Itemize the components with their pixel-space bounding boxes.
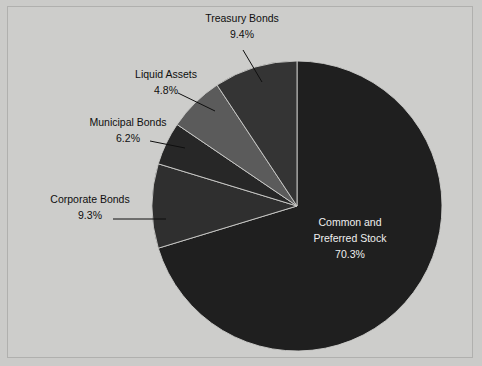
pie-wedges-group xyxy=(152,61,442,351)
label-treasury-bonds-name: Treasury Bonds xyxy=(205,12,279,24)
pie-chart-canvas: Treasury Bonds 9.4% Liquid Assets 4.8% M… xyxy=(0,0,482,366)
pie-chart-figure: Treasury Bonds 9.4% Liquid Assets 4.8% M… xyxy=(0,0,482,366)
label-treasury-bonds-value: 9.4% xyxy=(230,28,254,40)
label-common-preferred-stock-line2: Preferred Stock xyxy=(314,232,388,244)
label-corporate-bonds-name: Corporate Bonds xyxy=(50,193,129,205)
label-common-preferred-stock-value: 70.3% xyxy=(335,248,365,260)
label-municipal-bonds-name: Municipal Bonds xyxy=(89,116,166,128)
label-treasury-bonds: Treasury Bonds 9.4% xyxy=(205,12,279,40)
label-common-preferred-stock-line1: Common and xyxy=(318,216,381,228)
label-corporate-bonds-value: 9.3% xyxy=(78,209,102,221)
label-corporate-bonds: Corporate Bonds 9.3% xyxy=(50,193,129,221)
label-municipal-bonds: Municipal Bonds 6.2% xyxy=(89,116,166,144)
label-liquid-assets-name: Liquid Assets xyxy=(135,68,197,80)
label-municipal-bonds-value: 6.2% xyxy=(116,132,140,144)
label-liquid-assets: Liquid Assets 4.8% xyxy=(135,68,197,96)
label-liquid-assets-value: 4.8% xyxy=(154,84,178,96)
